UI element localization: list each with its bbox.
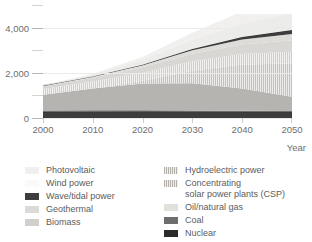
legend-swatch-icon [164,217,178,224]
gridline [43,118,292,119]
y-axis-label: 4,000 [5,22,29,33]
x-axis-title: Year [0,142,306,153]
y-axis-label: 0 [24,113,29,124]
legend-item-label: Coal [185,215,204,226]
legend-swatch-icon [164,230,178,237]
legend-item[interactable]: Wave/tidal power [25,191,152,202]
legend-item[interactable]: Biomass [25,217,152,228]
legend-swatch-icon [25,180,39,187]
legend-item-label: Wave/tidal power [46,191,115,202]
legend-item[interactable]: Photovoltaic [25,165,152,176]
gridline [43,28,292,29]
legend-item-label: Wind power [46,178,94,189]
plot-area: 4,0002,0000200020102020203020402050 [43,14,292,118]
legend-item[interactable]: Hydroelectric power [164,165,312,176]
x-axis-label: 2020 [132,124,153,135]
legend-item-label: Nuclear [185,228,216,239]
legend-swatch-icon [164,204,178,211]
gridline [43,73,292,74]
area-series-svg [43,14,292,118]
chart-legend: PhotovoltaicWind powerWave/tidal powerGe… [0,165,312,242]
x-axis-label: 2000 [32,124,53,135]
x-axis-tick [43,118,44,123]
y-axis-tick [32,118,43,119]
legend-item-label: Photovoltaic [46,165,95,176]
legend-swatch-icon [164,180,178,187]
legend-item[interactable]: Wind power [25,178,152,189]
legend-column-left: PhotovoltaicWind powerWave/tidal powerGe… [0,165,152,242]
y-axis-label: 2,000 [5,67,29,78]
stacked-area-chart: 4,0002,0000200020102020203020402050 Year [0,0,312,160]
legend-item-label: Oil/natural gas [185,202,243,213]
legend-item-label: Biomass [46,217,81,228]
legend-swatch-icon [25,167,39,174]
x-axis-tick [242,118,243,123]
legend-item[interactable]: Nuclear [164,228,312,239]
x-axis-label: 2030 [182,124,203,135]
x-axis-tick [143,118,144,123]
legend-swatch-icon [25,206,39,213]
legend-item[interactable]: Coal [164,215,312,226]
legend-swatch-icon [25,193,39,200]
x-axis-label: 2050 [281,124,302,135]
y-axis-minor-tick [32,5,43,6]
legend-item[interactable]: Geothermal [25,204,152,215]
legend-swatch-icon [164,167,178,174]
x-axis-label: 2010 [82,124,103,135]
legend-item[interactable]: Concentrating solar power plants (CSP) [164,178,312,200]
legend-column-right: Hydroelectric powerConcentrating solar p… [152,165,312,242]
x-axis-tick [192,118,193,123]
y-axis-tick [32,73,43,74]
x-axis-tick [93,118,94,123]
legend-item-label: Geothermal [46,204,93,215]
y-axis-minor-tick [32,50,43,51]
y-axis-tick [32,28,43,29]
legend-item-label: Hydroelectric power [185,165,265,176]
x-axis-label: 2040 [232,124,253,135]
y-axis-minor-tick [32,95,43,96]
legend-item-label: Concentrating solar power plants (CSP) [185,178,285,200]
legend-item[interactable]: Oil/natural gas [164,202,312,213]
chart-screenshot: 4,0002,0000200020102020203020402050 Year… [0,0,312,242]
x-axis-tick [291,118,292,123]
legend-swatch-icon [25,219,39,226]
